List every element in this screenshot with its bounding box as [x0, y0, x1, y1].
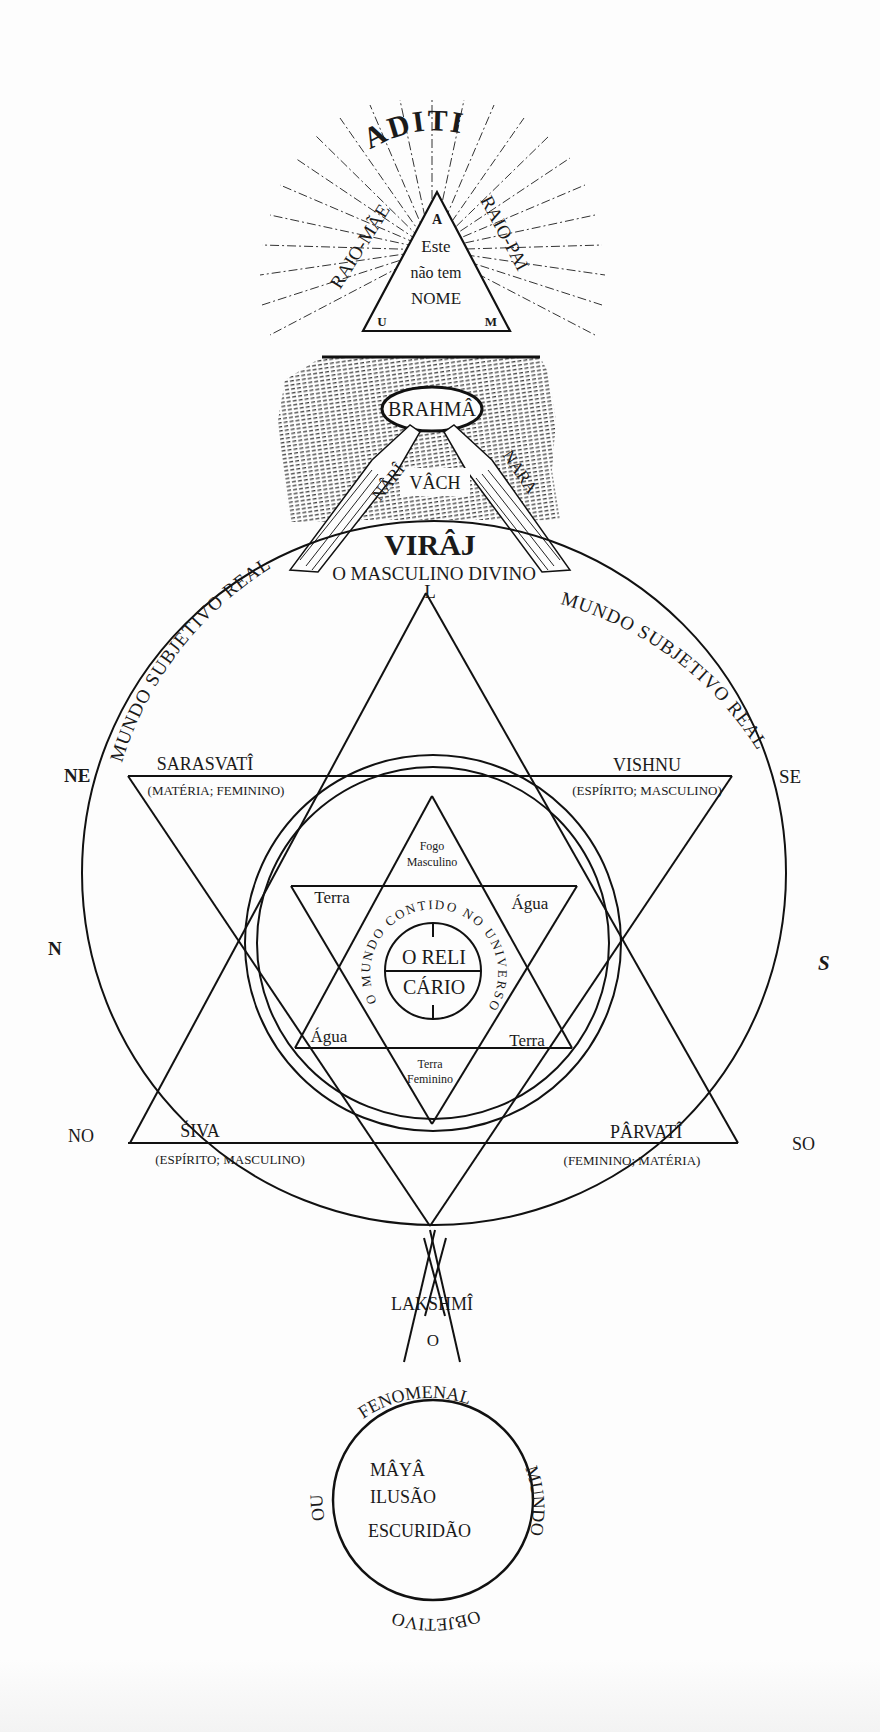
arc-fenomenal: FENOMENAL: [354, 1382, 473, 1422]
agua-upper-right: Água: [512, 894, 549, 913]
terra-bottom-label: Terra: [417, 1057, 443, 1071]
sarasvati-name: SARASVATÎ: [157, 753, 254, 774]
vach-label: VÂCH: [409, 472, 460, 493]
direction-so: SO: [792, 1134, 815, 1154]
vishnu-desc: (ESPÍRITO; MASCULINO): [572, 783, 722, 798]
triangle-text-este: Este: [421, 237, 450, 256]
brahma-label: BRAHMÂ: [388, 398, 476, 420]
triangle-letter-a: A: [432, 212, 443, 227]
siva-name: ŚIVA: [180, 1120, 220, 1141]
siva-desc: (ESPÍRITO; MASCULINO): [155, 1152, 305, 1167]
ilusao-label: ILUSÃO: [370, 1486, 436, 1507]
arc-label-right: MUNDO SUBJETIVO REAL: [559, 588, 772, 754]
direction-s: S: [818, 951, 830, 975]
ray-father-label: RAIO-PAI: [476, 192, 533, 274]
triangle-letter-m: M: [485, 314, 497, 329]
page-bottom-margin: [0, 1660, 880, 1732]
arc-mundo: MUNDO: [521, 1463, 548, 1537]
viraj-label: VIRÂJ: [384, 528, 476, 561]
triangle-text-nao-tem: não tem: [410, 264, 462, 281]
sarasvati-desc: (MATÉRIA; FEMININO): [148, 783, 285, 798]
lakshmi-name: LAKSHMÎ: [391, 1293, 473, 1314]
top-letter-l: L: [424, 581, 436, 602]
terra-lower-right: Terra: [509, 1031, 545, 1050]
vishnu-name: VISHNU: [613, 755, 681, 775]
direction-ne: NE: [64, 765, 90, 786]
direction-n: N: [48, 938, 62, 959]
diagram-canvas: ADITI RAIO-MÃE RAIO-PAI A U M Este não t…: [0, 0, 880, 1732]
reliquary: [385, 923, 481, 1019]
maya-label: MÂYÂ: [370, 1459, 425, 1480]
relicario-bottom: CÁRIO: [403, 976, 465, 998]
arc-ou: OU: [306, 1494, 329, 1523]
triangle-text-nome: NOME: [411, 289, 461, 308]
escuridao-label: ESCURIDÃO: [368, 1520, 471, 1541]
parvati-desc: (FEMININO; MATÉRIA): [564, 1153, 701, 1168]
direction-no: NO: [68, 1126, 94, 1146]
aditi-title: ADITI: [358, 103, 468, 155]
connector-o: O: [427, 1331, 439, 1350]
arc-objetivo: OBJETIVO: [389, 1606, 483, 1635]
agua-lower-left: Água: [311, 1027, 348, 1046]
parvati-name: PÂRVATÎ: [610, 1121, 682, 1142]
ray-mother-label: RAIO-MÃE: [326, 200, 394, 292]
masculino-label: Masculino: [407, 855, 458, 869]
feminino-label: Feminino: [407, 1072, 453, 1086]
direction-se: SE: [779, 766, 801, 787]
relicario-top: O RELI: [402, 946, 466, 968]
terra-upper-left: Terra: [314, 888, 350, 907]
fogo-label: Fogo: [420, 839, 445, 853]
arc-label-left: MUNDO SUBJETIVO REAL: [106, 553, 275, 765]
triangle-letter-u: U: [377, 314, 387, 329]
